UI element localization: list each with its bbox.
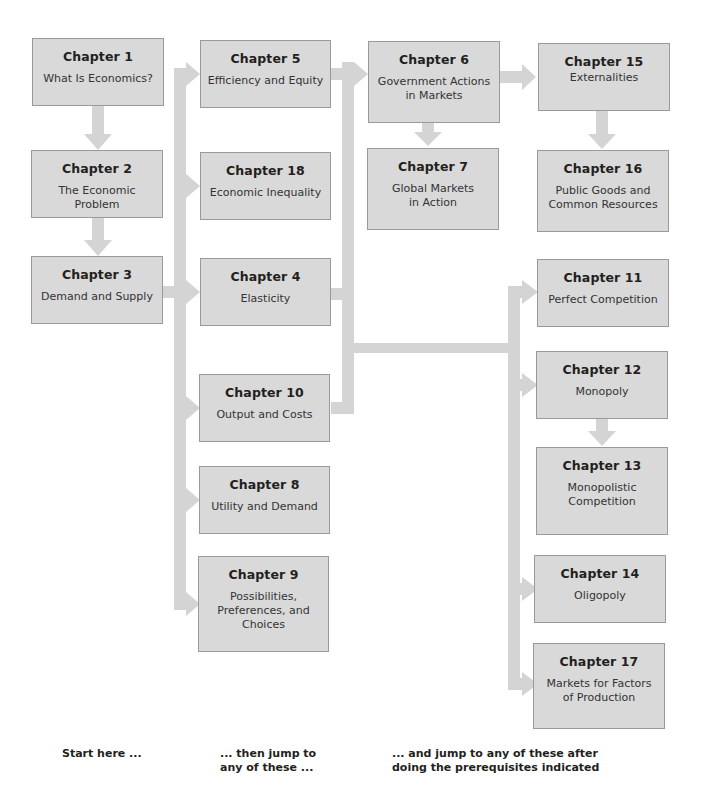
- chapter-box-15: Chapter 15 Externalities: [538, 43, 670, 111]
- chapter-title: Perfect Competition: [542, 293, 663, 307]
- chapter-box-14: Chapter 14 Oligopoly: [534, 555, 666, 623]
- chapter-title: Utility and Demand: [205, 500, 324, 514]
- chapter-box-16: Chapter 16 Public Goods and Common Resou…: [537, 150, 669, 232]
- chapter-title: Markets for Factors of Production: [540, 677, 657, 705]
- chapter-box-10: Chapter 10 Output and Costs: [199, 374, 330, 442]
- chapter-number: Chapter 12: [563, 362, 642, 377]
- chapter-box-2: Chapter 2 The Economic Problem: [31, 150, 163, 218]
- chapter-box-13: Chapter 13 Monopolistic Competition: [536, 447, 668, 535]
- caption-then: ... then jump to any of these ...: [220, 747, 316, 775]
- chapter-number: Chapter 10: [225, 385, 304, 400]
- chapter-title: Monopolistic Competition: [562, 481, 643, 509]
- chapter-number: Chapter 7: [398, 159, 468, 174]
- chapter-box-17: Chapter 17 Markets for Factors of Produc…: [533, 643, 665, 729]
- chapter-number: Chapter 3: [62, 267, 132, 282]
- chapter-title: Possibilities, Preferences, and Choices: [211, 590, 315, 632]
- chapter-box-3: Chapter 3 Demand and Supply: [31, 256, 163, 324]
- chapter-title: Public Goods and Common Resources: [542, 184, 663, 212]
- chapter-title: Government Actions in Markets: [372, 75, 496, 103]
- chapter-title: Elasticity: [235, 292, 297, 306]
- chapter-box-1: Chapter 1 What Is Economics?: [32, 38, 164, 106]
- chapter-box-7: Chapter 7 Global Markets in Action: [367, 148, 499, 230]
- caption-and: ... and jump to any of these after doing…: [392, 747, 599, 775]
- chapter-box-12: Chapter 12 Monopoly: [536, 351, 668, 419]
- chapter-title: Oligopoly: [568, 589, 632, 603]
- chapter-number: Chapter 2: [62, 161, 132, 176]
- chapter-title: Externalities: [564, 71, 645, 85]
- chapter-number: Chapter 11: [564, 270, 643, 285]
- chapter-box-5: Chapter 5 Efficiency and Equity: [200, 40, 331, 108]
- chapter-title: Monopoly: [569, 385, 634, 399]
- chapter-title: Output and Costs: [210, 408, 318, 422]
- chapter-box-8: Chapter 8 Utility and Demand: [199, 466, 330, 534]
- chapter-box-18: Chapter 18 Economic Inequality: [200, 152, 331, 220]
- chapter-number: Chapter 17: [560, 654, 639, 669]
- chapter-box-11: Chapter 11 Perfect Competition: [537, 259, 669, 327]
- chapter-number: Chapter 6: [399, 52, 469, 67]
- chapter-number: Chapter 4: [230, 269, 300, 284]
- chapter-title: Economic Inequality: [204, 186, 327, 200]
- chapter-number: Chapter 18: [226, 163, 305, 178]
- chapter-number: Chapter 14: [561, 566, 640, 581]
- chapter-number: Chapter 13: [563, 458, 642, 473]
- caption-start: Start here ...: [62, 747, 142, 761]
- chapter-box-9: Chapter 9 Possibilities, Preferences, an…: [198, 556, 329, 652]
- chapter-title: Global Markets in Action: [386, 182, 480, 210]
- chapter-number: Chapter 9: [228, 567, 298, 582]
- chapter-title: The Economic Problem: [32, 184, 162, 212]
- chapter-number: Chapter 15: [565, 54, 644, 69]
- chapter-number: Chapter 8: [229, 477, 299, 492]
- chapter-box-4: Chapter 4 Elasticity: [200, 258, 331, 326]
- chapter-title: Demand and Supply: [35, 290, 159, 304]
- chapter-number: Chapter 5: [230, 51, 300, 66]
- chapter-title: What Is Economics?: [37, 72, 159, 86]
- chapter-number: Chapter 1: [63, 49, 133, 64]
- chapter-box-6: Chapter 6 Government Actions in Markets: [368, 41, 500, 123]
- chapter-flowchart: Chapter 1 What Is Economics? Chapter 2 T…: [0, 0, 701, 789]
- chapter-number: Chapter 16: [564, 161, 643, 176]
- chapter-title: Efficiency and Equity: [202, 74, 329, 88]
